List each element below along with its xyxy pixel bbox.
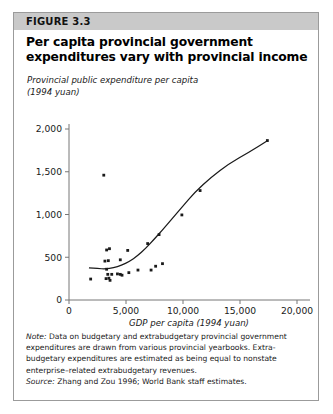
data-point: [121, 274, 124, 277]
svg-text:500: 500: [44, 252, 62, 263]
data-point: [180, 214, 183, 217]
svg-text:2,000: 2,000: [36, 123, 62, 134]
figure-card: FIGURE 3.3 Per capita provincial governm…: [13, 12, 319, 401]
svg-text:1,000: 1,000: [36, 209, 62, 220]
data-point: [105, 277, 108, 280]
svg-text:1,500: 1,500: [36, 166, 62, 177]
data-point: [150, 269, 153, 272]
data-point: [106, 273, 109, 276]
trend-line: [89, 141, 267, 269]
scatter-plot: 05001,0001,5002,000 05,00010,00015,00020…: [14, 108, 320, 333]
source-label: Source:: [26, 377, 55, 386]
data-point: [108, 247, 111, 250]
data-point: [105, 268, 108, 271]
figure-banner: FIGURE 3.3: [14, 13, 318, 31]
data-point: [126, 249, 129, 252]
tick-marks: [65, 129, 297, 304]
figure-title: Per capita provincial government expendi…: [26, 35, 312, 64]
data-point: [102, 174, 105, 177]
source-body: Zhang and Zou 1996; World Bank staff est…: [55, 377, 247, 386]
data-point: [266, 139, 269, 142]
source-text: Source: Zhang and Zou 1996; World Bank s…: [26, 376, 311, 387]
svg-text:20,000: 20,000: [281, 305, 313, 316]
svg-text:0: 0: [66, 305, 72, 316]
data-point: [107, 259, 110, 262]
data-point: [137, 269, 140, 272]
data-point: [127, 271, 130, 274]
data-point: [109, 279, 112, 282]
notes-block: Note: Data on budgetary and extrabudgeta…: [26, 331, 311, 387]
note-label: Note:: [26, 332, 47, 341]
x-axis-title: GDP per capita (1994 yuan): [129, 318, 249, 328]
y-axis-caption: Provincial public expenditure per capita…: [27, 75, 307, 98]
data-point: [116, 273, 119, 276]
note-text: Note: Data on budgetary and extrabudgeta…: [26, 331, 311, 376]
data-point: [154, 265, 157, 268]
plot-svg: 05001,0001,5002,000 05,00010,00015,00020…: [14, 108, 320, 333]
data-point: [199, 189, 202, 192]
data-point: [158, 233, 161, 236]
svg-text:10,000: 10,000: [167, 305, 199, 316]
data-point: [146, 242, 149, 245]
y-tick-labels: 05001,0001,5002,000: [36, 123, 62, 305]
data-point: [104, 260, 107, 263]
data-point: [110, 273, 113, 276]
note-body: Data on budgetary and extrabudgetary pro…: [26, 332, 287, 375]
y-axis-caption-line2: (1994 yuan): [27, 87, 307, 99]
data-point: [105, 249, 108, 252]
y-axis-caption-line1: Provincial public expenditure per capita: [27, 75, 307, 87]
x-tick-labels: 05,00010,00015,00020,000: [66, 305, 313, 316]
data-point: [89, 278, 92, 281]
axis-lines: [69, 124, 310, 300]
data-point: [161, 262, 164, 265]
figure-number-label: FIGURE 3.3: [26, 16, 91, 27]
svg-text:5,000: 5,000: [113, 305, 139, 316]
svg-text:0: 0: [56, 294, 62, 305]
svg-text:15,000: 15,000: [224, 305, 256, 316]
data-point: [119, 258, 122, 261]
